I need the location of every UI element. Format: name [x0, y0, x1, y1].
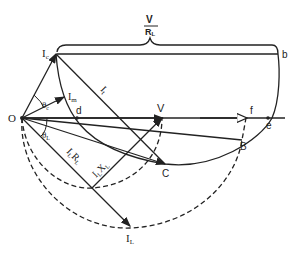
il-phasor [22, 118, 130, 226]
label-it: It [97, 84, 110, 97]
label-il: IL [126, 232, 134, 246]
label-ilxl: ILXL [90, 159, 111, 180]
point-d [75, 116, 79, 120]
label-v: V [157, 102, 165, 114]
label-b: b [282, 49, 288, 60]
label-ic: Ic [42, 47, 49, 61]
label-d: d [76, 105, 82, 116]
label-theta-c: θc [42, 100, 49, 111]
label-theta-l: θL [42, 130, 50, 141]
point-o [20, 116, 24, 120]
ic-phasor [22, 54, 56, 118]
label-f: f [250, 105, 253, 116]
dashed-arc-large [22, 118, 246, 228]
phasor-diagram: O Ic Im It θc θL ILRL ILXL IL V d f e b … [0, 0, 297, 253]
brace-denominator: RL [145, 27, 156, 37]
dashed-arc-small [22, 118, 162, 188]
brace-numerator: V [146, 14, 153, 25]
label-e: e [266, 120, 272, 131]
label-im: Im [68, 91, 77, 104]
label-B: B [240, 141, 247, 152]
label-o: O [8, 112, 16, 124]
v-over-rl-brace [57, 38, 278, 54]
label-c: C [162, 168, 169, 179]
